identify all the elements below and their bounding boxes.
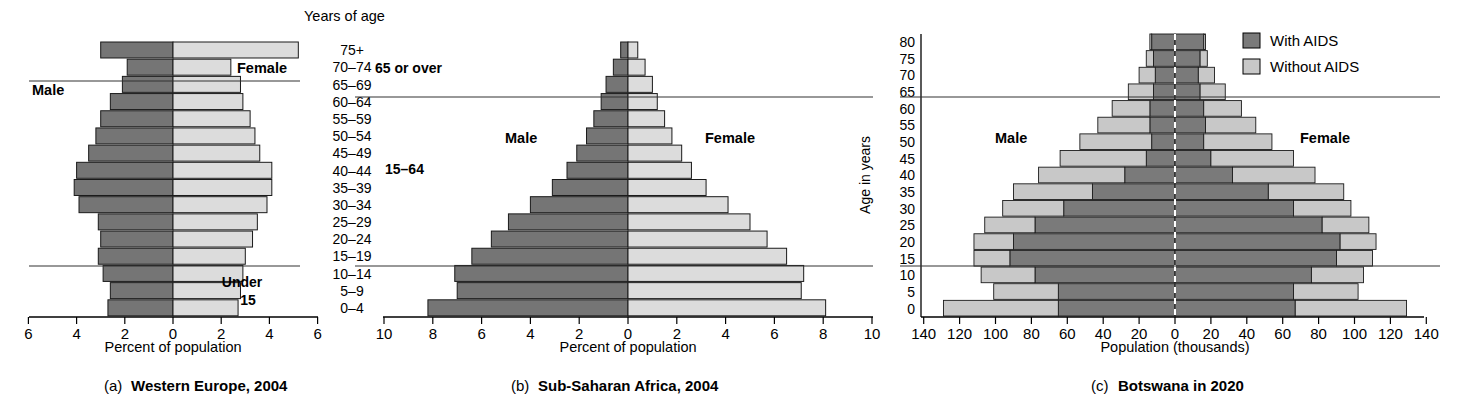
- x-tick-label: 6: [313, 325, 321, 342]
- x-tick-label: 80: [1310, 325, 1327, 342]
- bar-female-without-aids: [1204, 134, 1272, 150]
- bracket-label-65-or-over: 65 or over: [375, 60, 442, 76]
- bar-female-without-aids: [1211, 151, 1294, 167]
- population-pyramid-figure: 6420246 Percent of population (a) Wester…: [0, 0, 1461, 417]
- bar-female-with-aids: [1175, 200, 1293, 216]
- chart-b-xlabel: Percent of population: [559, 339, 696, 355]
- bar-female-with-aids: [1175, 101, 1204, 117]
- chart-c-y-axis-labels: 80757065605550454035302520151050: [899, 34, 915, 316]
- bar-male-without-aids: [1039, 167, 1125, 183]
- chart-b-bars: [428, 42, 826, 316]
- chart-a-western-europe: 6420246 Percent of population (a) Wester…: [24, 42, 322, 394]
- bar-female-without-aids: [1200, 51, 1207, 67]
- bar-male-with-aids: [1064, 200, 1175, 216]
- bar-male: [508, 214, 628, 230]
- age-label: 35–39: [333, 180, 372, 196]
- bar-female: [628, 231, 767, 247]
- bar-male-without-aids: [1098, 117, 1150, 133]
- bar-female-without-aids: [1198, 67, 1214, 83]
- age-label: 0–4: [340, 300, 364, 316]
- x-tick-label: 4: [72, 325, 80, 342]
- bar-female-without-aids: [1293, 200, 1350, 216]
- bar-male: [96, 128, 173, 144]
- bar-female: [628, 197, 728, 213]
- y-tick-label: 0: [907, 301, 915, 317]
- bar-female: [173, 145, 260, 161]
- bar-male: [606, 76, 628, 92]
- bar-female: [628, 76, 652, 92]
- age-label: 40–44: [333, 163, 372, 179]
- bar-female-with-aids: [1175, 151, 1211, 167]
- bar-female-with-aids: [1175, 184, 1268, 200]
- bar-male: [587, 128, 628, 144]
- bar-female-with-aids: [1175, 250, 1337, 266]
- bar-female-without-aids: [1322, 217, 1369, 233]
- x-tick-label: 60: [1274, 325, 1291, 342]
- bar-female-without-aids: [1268, 184, 1343, 200]
- x-tick-label: 120: [947, 325, 972, 342]
- chart-b-caption-prefix: (b): [511, 377, 529, 394]
- bar-female-with-aids: [1175, 51, 1200, 67]
- bar-male-with-aids: [1146, 151, 1175, 167]
- bar-male: [110, 283, 173, 299]
- y-tick-label: 15: [899, 251, 915, 267]
- bar-female: [173, 162, 272, 178]
- chart-c-male-label: Male: [995, 130, 1027, 146]
- bar-female: [628, 180, 706, 196]
- legend-label-without-aids: Without AIDS: [1270, 58, 1359, 75]
- bar-male: [103, 265, 173, 281]
- legend: With AIDS Without AIDS: [1243, 32, 1359, 75]
- bar-male-with-aids: [1150, 117, 1175, 133]
- bar-female-without-aids: [1204, 101, 1242, 117]
- bar-female: [628, 59, 645, 75]
- bar-female: [628, 248, 787, 264]
- bar-male-with-aids: [1155, 67, 1175, 83]
- bar-female-with-aids: [1175, 234, 1340, 250]
- age-label: 70–74: [333, 59, 372, 75]
- bar-female-without-aids: [1340, 234, 1376, 250]
- y-tick-label: 10: [899, 267, 915, 283]
- age-label: 15–19: [333, 248, 372, 264]
- bar-male: [101, 111, 173, 127]
- x-tick-label: 6: [24, 325, 32, 342]
- bar-male-without-aids: [1112, 101, 1150, 117]
- y-tick-label: 60: [899, 101, 915, 117]
- bar-male-without-aids: [1003, 200, 1064, 216]
- bar-male-with-aids: [1013, 234, 1175, 250]
- y-tick-label: 75: [899, 51, 915, 67]
- x-tick-label: 140: [911, 325, 936, 342]
- bar-female-without-aids: [1204, 34, 1206, 50]
- bar-male: [567, 162, 628, 178]
- bar-female: [173, 111, 250, 127]
- age-label: 50–54: [333, 128, 372, 144]
- x-tick-label: 8: [429, 325, 437, 342]
- bar-female-without-aids: [1293, 284, 1358, 300]
- bar-male-with-aids: [1150, 101, 1175, 117]
- bar-male: [101, 42, 173, 58]
- bar-male-with-aids: [1152, 34, 1175, 50]
- age-label: 20–24: [333, 231, 372, 247]
- y-tick-label: 5: [907, 284, 915, 300]
- chart-c-ylabel: Age in years: [857, 136, 873, 214]
- bar-male-without-aids: [1060, 151, 1146, 167]
- bar-female: [173, 214, 257, 230]
- bar-male: [108, 300, 173, 316]
- bar-female: [628, 214, 750, 230]
- bar-female-with-aids: [1175, 217, 1322, 233]
- chart-a-caption-prefix: (a): [104, 377, 122, 394]
- bar-female: [173, 300, 238, 316]
- bar-female-without-aids: [1232, 167, 1315, 183]
- bar-male-without-aids: [994, 284, 1059, 300]
- x-tick-label: 4: [721, 325, 729, 342]
- bar-male-without-aids: [1150, 34, 1152, 50]
- age-label: 65–69: [333, 77, 372, 93]
- chart-c-bars: [943, 34, 1406, 316]
- bar-male: [552, 180, 628, 196]
- bar-male-with-aids: [1092, 184, 1175, 200]
- bar-female-with-aids: [1175, 67, 1198, 83]
- bar-male-with-aids: [1035, 217, 1175, 233]
- bar-female-without-aids: [1337, 250, 1373, 266]
- bar-female: [173, 197, 267, 213]
- bar-male-without-aids: [974, 250, 1010, 266]
- bar-male: [613, 59, 628, 75]
